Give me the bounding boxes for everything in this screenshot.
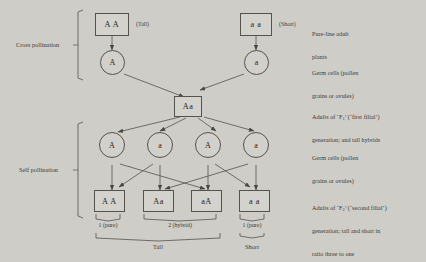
parent-phenotype-short: (Short): [279, 21, 296, 27]
stage-label-cross-pollination: Cross pollination: [16, 41, 59, 49]
caption-f2-line1: Adults of ‘F2’ (‘second filial’): [312, 205, 387, 213]
parent-gamete-a[interactable]: a: [244, 50, 269, 75]
caption-f1-line1-post: ’ (‘first filial’): [345, 114, 380, 120]
f2-genotype-box-aa[interactable]: a a: [239, 190, 270, 212]
brace-short: [240, 233, 264, 238]
f2-genotype-box-aA[interactable]: aA: [191, 190, 222, 212]
f1-gamete-1-A[interactable]: A: [99, 132, 125, 158]
f1-gamete-3-A[interactable]: A: [195, 132, 221, 158]
genetics-diagram: Cross pollination Self pollination A A (…: [0, 0, 426, 262]
trait-label-short: Short: [228, 243, 276, 250]
parent-genotype-box-tall[interactable]: A A: [95, 13, 129, 36]
brace-tall: [96, 233, 220, 241]
f2-genotype-box-Aa[interactable]: Aa: [143, 190, 174, 212]
caption-f2-line1-post: ’ (‘second filial’): [345, 205, 387, 211]
caption-gametes1-line1: Germ cells (pollen: [312, 70, 358, 78]
caption-f2-line2: generation; tall and short in: [312, 228, 387, 236]
caption-f2-line1-pre: Adults of ‘F: [312, 205, 342, 211]
caption-f1-line1: Adults of ‘F1’ (‘first filial’): [312, 114, 380, 122]
f1-gamete-4-a[interactable]: a: [243, 132, 269, 158]
ratio-label-2-hybrid: 2 (hybrid): [156, 222, 204, 228]
ratio-label-1-pure-2: 1 (pure): [228, 222, 276, 228]
stage-label-self-pollination: Self pollination: [19, 166, 58, 174]
caption-parents-line1: Pure-line adult: [312, 31, 349, 39]
brace-ratio-3: [240, 214, 264, 221]
caption-f1-line1-pre: Adults of ‘F: [312, 114, 342, 120]
f1-gamete-2-a[interactable]: a: [147, 132, 173, 158]
parent-gamete-A[interactable]: A: [100, 50, 125, 75]
caption-gametes2-line1: Germ cells (pollen: [312, 155, 358, 163]
bracket-self-pollination: [73, 122, 83, 218]
caption-f2-line3: ratio three to one: [312, 251, 387, 259]
parent-phenotype-tall: (Tall): [136, 21, 149, 27]
caption-gametes2-line2: grains or ovules): [312, 178, 358, 186]
f1-genotype-box[interactable]: Aa: [174, 96, 202, 117]
f2-genotype-box-AA[interactable]: A A: [94, 190, 125, 212]
bracket-cross-pollination: [73, 10, 83, 80]
brace-ratio-2: [144, 214, 216, 221]
caption-f2-generation: Adults of ‘F2’ (‘second filial’) generat…: [312, 190, 387, 262]
ratio-label-1-pure: 1 (pure): [84, 222, 132, 228]
trait-label-tall: Tall: [134, 243, 182, 250]
parent-genotype-box-short[interactable]: a a: [240, 13, 272, 36]
brace-ratio-1: [96, 214, 120, 221]
